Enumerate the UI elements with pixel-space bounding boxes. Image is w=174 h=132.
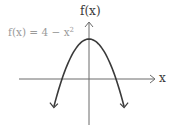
equation-exponent: 2 (70, 26, 74, 34)
equation-label: f(x) = 4 − x2 (8, 27, 74, 38)
equation-text: f(x) = 4 − x (8, 26, 70, 38)
y-axis-label: f(x) (80, 5, 101, 17)
parabola-plot (0, 0, 174, 132)
x-axis-label: x (159, 72, 166, 84)
